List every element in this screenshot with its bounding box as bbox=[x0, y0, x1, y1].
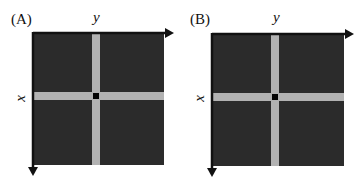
panel-a: (A) y x bbox=[0, 0, 181, 187]
x-axis-arrow-icon bbox=[28, 32, 38, 176]
y-axis-arrow-icon bbox=[212, 29, 354, 39]
axes-b bbox=[181, 0, 363, 187]
y-axis-arrow-icon bbox=[33, 28, 174, 38]
panel-b: (B) y x bbox=[181, 0, 362, 187]
axes-a bbox=[0, 0, 181, 187]
x-axis-arrow-icon bbox=[207, 33, 217, 177]
